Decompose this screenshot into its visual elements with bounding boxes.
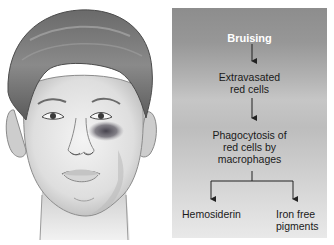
node-phagocytosis-line3: macrophages [172, 153, 327, 165]
bruising-figure: Bruising Extravasated red cells Phagocyt… [0, 0, 334, 245]
node-iron-free-pigments: Iron free pigments [276, 208, 319, 232]
node-phagocytosis-line1: Phagocytosis of [172, 129, 327, 141]
node-hemosiderin: Hemosiderin [182, 208, 241, 220]
bruise [88, 121, 124, 141]
bruised-face-illustration [0, 0, 168, 245]
node-hemosiderin-label: Hemosiderin [182, 208, 241, 220]
node-iron-free-line2: pigments [276, 220, 319, 232]
node-extravasated-line1: Extravasated [172, 71, 327, 83]
node-extravasated-line2: red cells [172, 83, 327, 95]
flowchart-panel: Bruising Extravasated red cells Phagocyt… [172, 8, 327, 238]
node-phagocytosis-line2: red cells by [172, 141, 327, 153]
node-phagocytosis: Phagocytosis of red cells by macrophages [172, 129, 327, 165]
node-extravasated-red-cells: Extravasated red cells [172, 71, 327, 95]
node-bruising: Bruising [172, 32, 327, 44]
node-iron-free-line1: Iron free [276, 208, 319, 220]
node-bruising-label: Bruising [227, 32, 272, 44]
